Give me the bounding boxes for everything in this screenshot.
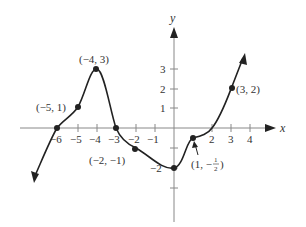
- svg-text:2: 2: [214, 165, 218, 173]
- svg-text:(1, −: (1, −: [191, 158, 212, 171]
- x-tick-label: 2: [209, 133, 215, 145]
- x-axis-arrow-icon: [265, 124, 276, 132]
- label-pointer-arrow-icon: [192, 141, 198, 148]
- svg-text:1: 1: [214, 156, 218, 164]
- y-tick-label: 2: [160, 83, 166, 95]
- point-1-mhalf: [190, 135, 196, 141]
- data-points: [54, 66, 235, 171]
- x-tick-label: −4: [89, 133, 101, 145]
- y-axis: y: [169, 11, 178, 222]
- x-tick-labels: −6 −5 −4 −3 −2 −1 2 3 4: [50, 133, 253, 145]
- y-axis-arrow-icon: [170, 27, 178, 38]
- y-tick-label: 3: [160, 63, 166, 75]
- svg-text:): ): [220, 158, 224, 171]
- y-tick-label: 1: [160, 102, 166, 114]
- curve-arrow-down-icon: [31, 171, 39, 183]
- point-m3-0: [113, 125, 119, 131]
- y-tick-labels: 3 2 1 −2: [150, 63, 166, 174]
- point-0-m2: [171, 165, 177, 171]
- x-tick-label: 4: [247, 133, 253, 145]
- point-m4-3: [93, 66, 99, 72]
- point-m2-m1: [132, 146, 138, 152]
- x-tick-label: −5: [70, 133, 82, 145]
- point-m6-0: [54, 125, 60, 131]
- y-axis-label: y: [169, 11, 176, 25]
- point-label: (−5, 1): [36, 101, 66, 114]
- function-graph: x y −6 −5 −4 −3 −2 −1 2 3 4 3 2: [0, 0, 306, 227]
- curve-arrow-up-icon: [239, 53, 247, 65]
- x-tick-label: 3: [228, 133, 234, 145]
- x-tick-label: −3: [108, 133, 120, 145]
- point-3-2: [229, 85, 235, 91]
- x-tick-label: −1: [147, 133, 159, 145]
- point-label: (−2, −1): [89, 154, 126, 167]
- point-m5-1: [75, 104, 81, 110]
- x-axis-label: x: [279, 121, 286, 135]
- point-label: (3, 2): [236, 83, 260, 96]
- point-label-1-mhalf: (1, − 1 2 ): [191, 156, 224, 173]
- x-tick-label: −2: [128, 133, 140, 145]
- point-label: (−4, 3): [79, 53, 109, 66]
